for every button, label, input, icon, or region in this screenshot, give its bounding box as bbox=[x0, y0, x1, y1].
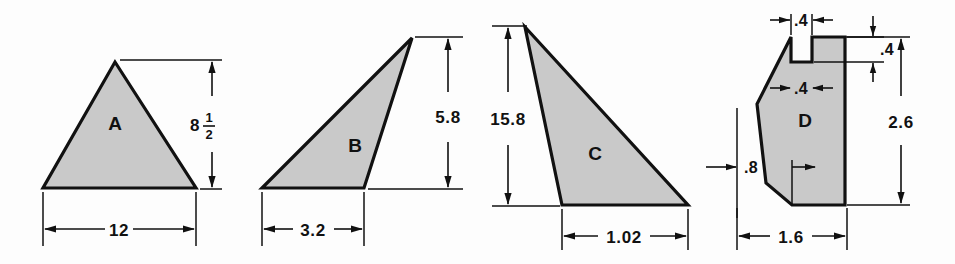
shape-a-base-arrow-right bbox=[183, 225, 195, 232]
technical-drawing-figure: A 8 1 2 12 B bbox=[0, 0, 955, 264]
shape-d-height-value: 2.6 bbox=[888, 113, 913, 132]
shape-b-height-arrow-top bbox=[444, 38, 451, 50]
shape-c-triangle bbox=[525, 27, 688, 205]
shape-c-base-value: 1.02 bbox=[606, 228, 642, 247]
shape-b-height-value: 5.8 bbox=[435, 108, 460, 127]
shape-a-base-arrow-left bbox=[44, 225, 56, 232]
shape-c-height-arrow-top bbox=[504, 27, 511, 39]
shape-b-triangle bbox=[262, 38, 412, 188]
shape-d-notch-top-arrow-right bbox=[813, 17, 824, 23]
shape-b-height-arrow-bottom bbox=[444, 176, 451, 188]
shape-a-fraction-denominator: 2 bbox=[205, 127, 212, 142]
shape-c-base-arrow-right bbox=[675, 232, 687, 239]
shape-d-notch-inner-value: .4 bbox=[794, 80, 808, 97]
shape-a-height-value: 8 bbox=[190, 116, 200, 135]
shape-d-notch-depth-arrow-top bbox=[870, 26, 876, 36]
shape-d-notch-depth-arrow-bottom bbox=[870, 63, 876, 73]
shape-d-width-arrow-right bbox=[834, 232, 846, 239]
figure-canvas: A 8 1 2 12 B bbox=[0, 0, 955, 264]
shape-a-base-value: 12 bbox=[109, 221, 129, 240]
shape-b-base-value: 3.2 bbox=[300, 221, 325, 240]
shape-d-label: D bbox=[798, 110, 812, 131]
shape-c-height-arrow-bottom bbox=[504, 193, 511, 205]
shape-d-left-offset-value: .8 bbox=[744, 159, 758, 176]
shape-c-group: C 15.8 1.02 bbox=[490, 26, 688, 250]
shape-d-group: D .4 .4 .4 bbox=[706, 12, 914, 250]
shape-c-base-arrow-left bbox=[563, 232, 575, 239]
shape-d-notch-depth-value: .4 bbox=[880, 41, 894, 58]
shape-a-height-fraction: 1 2 bbox=[203, 110, 215, 142]
shape-d-left-offset-arrow bbox=[726, 164, 737, 170]
shape-c-height-value: 15.8 bbox=[490, 110, 526, 129]
shape-a-height-arrow-top bbox=[208, 61, 215, 73]
shape-b-base-arrow-right bbox=[351, 225, 363, 232]
shape-a-group: A 8 1 2 12 bbox=[43, 60, 222, 246]
shape-a-height-arrow-bottom bbox=[208, 176, 215, 188]
shape-d-width-arrow-left bbox=[738, 232, 750, 239]
shape-c-label: C bbox=[588, 143, 602, 164]
shape-a-fraction-numerator: 1 bbox=[205, 110, 212, 125]
shape-b-group: B 5.8 3.2 bbox=[262, 37, 463, 246]
shape-d-width-value: 1.6 bbox=[778, 228, 803, 247]
shape-d-notch-top-value: .4 bbox=[794, 12, 808, 29]
shape-d-notch-top-arrow-left bbox=[779, 17, 790, 23]
shape-b-label: B bbox=[348, 135, 362, 156]
shape-a-label: A bbox=[108, 113, 122, 134]
shape-d-height-arrow-bottom bbox=[897, 192, 904, 204]
shape-b-base-arrow-left bbox=[263, 225, 275, 232]
shape-d-height-arrow-top bbox=[897, 38, 904, 50]
